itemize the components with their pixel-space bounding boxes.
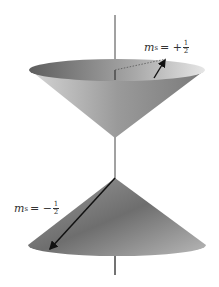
label-spin-down: ms = − 12 — [14, 201, 59, 216]
label-spin-up: ms = + 12 — [144, 40, 189, 55]
upper-cone — [29, 59, 205, 138]
lower-cone — [28, 178, 206, 275]
